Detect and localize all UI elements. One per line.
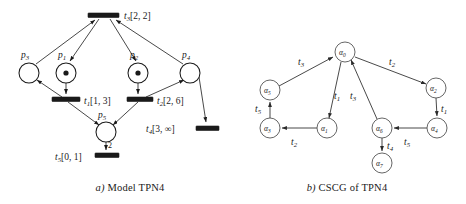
arc-t1-to-p3 (37, 80, 62, 97)
token-p1 (63, 70, 68, 75)
edge-label-t5-alpha4-alpha6: t5 (404, 137, 411, 148)
panel-b-state-class-graph: α0 α5 α2 α3 α1 α6 α4 α7 t3 t2 t1 t3 t5 t… (255, 42, 447, 173)
token-p2 (135, 70, 140, 75)
transition-t2 (127, 97, 153, 102)
edge-label-t1-alpha2-alpha4: t1 (441, 104, 447, 115)
edge-label-t4-alpha6-alpha7: t4 (387, 141, 394, 152)
panel-a-petri-net: p3 p1 p2 p4 p5 t3[2, 2] t1[1, 3] t2[2, 6… (19, 11, 219, 163)
edge-label-t3-alpha6-alpha0: t3 (350, 91, 357, 102)
arc-t2-to-p4 (146, 80, 184, 97)
caption-panel-a: a) Model TPN4 (60, 182, 200, 193)
place-label-p2: p2 (129, 50, 139, 61)
edge-labels-group: t3 t2 t1 t3 t5 t2 t1 t5 t4 (255, 57, 447, 152)
figure-container: p3 p1 p2 p4 p5 t3[2, 2] t1[1, 3] t2[2, 6… (0, 0, 466, 204)
states-group (260, 42, 447, 173)
caption-b-prefix: b) (307, 182, 316, 193)
place-label-p5: p5 (97, 110, 107, 121)
state-labels-group: α0 α5 α2 α3 α1 α6 α4 α7 (264, 48, 438, 169)
arc-weight-p5-t5: 2 (108, 141, 112, 150)
edge-label-t1-alpha0-alpha1: t1 (334, 91, 340, 102)
caption-b-text: CSCG of TPN4 (316, 182, 388, 193)
place-p4 (180, 63, 200, 83)
caption-panel-b: b) CSCG of TPN4 (277, 182, 417, 193)
arcs-from-t3 (70, 19, 136, 61)
edge-label-t3-alpha5-alpha0: t3 (298, 57, 305, 68)
transition-label-t2: t2[2, 6] (157, 96, 184, 107)
edges-group (270, 57, 437, 151)
edge-label-t5-alpha3-alpha5: t5 (255, 104, 262, 115)
place-p3 (19, 63, 39, 83)
edge-alpha2-to-alpha4 (436, 98, 437, 116)
edge-label-t2-alpha0-alpha2: t2 (389, 57, 396, 68)
edge-alpha5-to-alpha0 (279, 57, 333, 86)
caption-a-prefix: a) (96, 182, 105, 193)
transition-label-t1: t1[1, 3] (84, 96, 111, 107)
caption-a-text: Model TPN4 (105, 182, 165, 193)
edge-alpha0-to-alpha1 (329, 62, 341, 118)
transition-t5 (95, 153, 119, 158)
edge-label-t2-alpha1-alpha3: t2 (291, 137, 298, 148)
transitions-group (52, 13, 219, 158)
arc-t2-to-p5 (113, 102, 138, 125)
arc-p4-to-t4 (199, 77, 206, 122)
arc-t3-to-p1 (70, 19, 99, 61)
figure-svg: p3 p1 p2 p4 p5 t3[2, 2] t1[1, 3] t2[2, 6… (0, 0, 466, 204)
place-label-p3: p3 (20, 50, 30, 61)
transition-t4 (196, 126, 219, 131)
transition-label-t3: t3[2, 2] (124, 11, 151, 22)
arc-p4-to-t3 (116, 20, 183, 64)
place-label-p4: p4 (181, 50, 191, 61)
edge-alpha6-to-alpha0 (351, 60, 377, 119)
transition-label-t5: t5[0, 1] (55, 152, 82, 163)
place-label-p1: p1 (57, 50, 66, 61)
place-p5 (96, 122, 116, 142)
transition-t3 (88, 13, 119, 18)
transition-label-t4: t4[3, ∞] (146, 124, 175, 135)
transition-t1 (52, 97, 80, 102)
